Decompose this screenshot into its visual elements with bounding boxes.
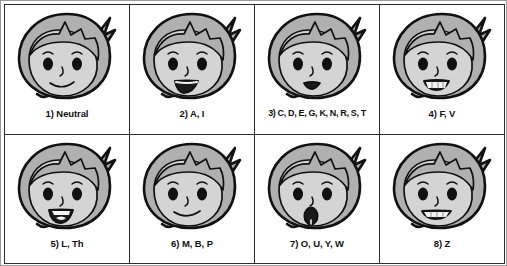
eye-left-icon [293,187,303,200]
face-illustration-3 [255,5,379,109]
face-illustration-4 [380,5,504,109]
viseme-caption-3: 3) C, D, E, G, K, N, R, S, T [255,108,379,119]
viseme-cell-7[interactable]: 7) O, U, Y, W [255,135,379,264]
viseme-cell-6[interactable]: 6) M, B, P [130,135,254,264]
face-svg-o-u-y-w [261,138,373,238]
face-svg-cdegknrst [261,8,373,108]
face-illustration-8 [380,135,504,239]
face-svg-m-b-p [136,138,248,238]
eye-left-icon [168,58,178,71]
viseme-grid: 1) Neutral [4,4,505,264]
teeth-block-icon [426,82,447,88]
eye-left-icon [43,58,53,71]
face-illustration-1 [5,5,129,109]
viseme-caption-2: 2) A, I [130,108,254,119]
viseme-caption-7: 7) O, U, Y, W [255,238,379,249]
eye-right-icon [72,58,82,71]
upper-teeth-icon [176,82,197,83]
face-illustration-6 [130,135,254,239]
face-svg-l-th [11,138,123,238]
viseme-caption-5: 5) L, Th [5,238,129,249]
eye-right-icon [322,58,332,71]
eye-right-icon [197,187,207,200]
viseme-cell-3[interactable]: 3) C, D, E, G, K, N, R, S, T [255,5,379,134]
eye-left-icon [293,58,303,71]
eye-right-icon [447,187,457,200]
face-svg-f-v [386,8,498,108]
eye-right-icon [197,58,207,71]
viseme-caption-4: 4) F, V [380,108,504,119]
face-svg-a-i [136,8,248,108]
teeth-block-icon [424,212,449,217]
viseme-caption-6: 6) M, B, P [130,238,254,249]
viseme-chart-frame: 1) Neutral [0,0,507,266]
face-illustration-7 [255,135,379,239]
viseme-cell-4[interactable]: 4) F, V [380,5,504,134]
viseme-caption-1: 1) Neutral [5,108,129,119]
eye-right-icon [322,187,332,200]
eye-right-icon [447,58,457,71]
upper-teeth-icon [52,211,70,215]
face-svg-neutral [11,8,123,108]
viseme-cell-5[interactable]: 5) L, Th [5,135,129,264]
eye-left-icon [168,187,178,200]
eye-left-icon [418,58,428,71]
eye-left-icon [418,187,428,200]
viseme-cell-2[interactable]: 2) A, I [130,5,254,134]
viseme-caption-8: 8) Z [380,238,504,249]
viseme-cell-1[interactable]: 1) Neutral [5,5,129,134]
viseme-cell-8[interactable]: 8) Z [380,135,504,264]
face-svg-z [386,138,498,238]
face-illustration-5 [5,135,129,239]
eye-right-icon [72,187,82,200]
eye-left-icon [43,187,53,200]
face-illustration-2 [130,5,254,109]
